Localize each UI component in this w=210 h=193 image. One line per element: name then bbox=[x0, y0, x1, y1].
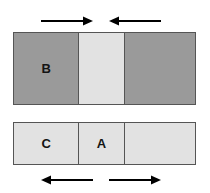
arrow-right-icon bbox=[109, 174, 161, 186]
block-segment-b: B bbox=[14, 33, 78, 104]
block-segment-c: C bbox=[14, 123, 78, 164]
figure-canvas: B C A bbox=[0, 0, 210, 193]
block-label-a: A bbox=[97, 137, 106, 150]
block-segment-lower-right bbox=[124, 123, 195, 164]
upper-block-row: B bbox=[13, 32, 196, 105]
arrow-left-icon bbox=[109, 15, 161, 27]
block-segment-a: A bbox=[78, 123, 124, 164]
arrow-left-icon bbox=[41, 174, 93, 186]
block-segment-upper-middle bbox=[78, 33, 124, 104]
block-label-b: B bbox=[41, 62, 50, 75]
arrow-right-icon bbox=[41, 15, 93, 27]
block-label-c: C bbox=[41, 137, 50, 150]
lower-block-row: C A bbox=[13, 122, 196, 165]
block-segment-upper-right bbox=[124, 33, 195, 104]
